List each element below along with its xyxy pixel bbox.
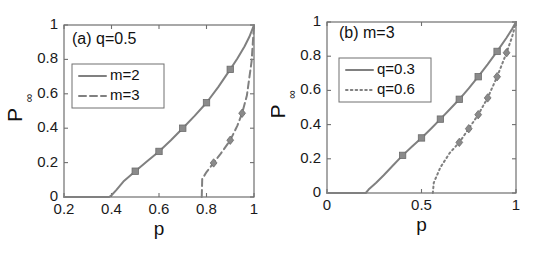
data-marker-square bbox=[494, 48, 500, 54]
y-axis-title-infinity: ∞ bbox=[285, 90, 299, 99]
data-marker-square bbox=[456, 96, 462, 102]
x-axis-title: p bbox=[154, 218, 165, 239]
legend-label: q=0.3 bbox=[377, 60, 415, 77]
data-marker-diamond bbox=[503, 49, 510, 57]
y-tick-label: 0.6 bbox=[300, 80, 321, 97]
y-tick-label: 1 bbox=[313, 12, 321, 29]
data-marker-square bbox=[203, 100, 209, 106]
y-tick-label: 0 bbox=[313, 183, 321, 200]
y-axis-title-P: P bbox=[3, 108, 26, 122]
y-tick-label: 0.6 bbox=[37, 84, 58, 101]
data-marker-square bbox=[180, 125, 186, 131]
panel-title: (b) m=3 bbox=[339, 24, 395, 41]
y-tick-label: 0 bbox=[50, 187, 58, 204]
y-axis-title-infinity: ∞ bbox=[22, 94, 36, 103]
plot-frame bbox=[64, 25, 254, 197]
chart-panel-b: 00.5100.20.40.60.81pP∞(b) m=3q=0.3q=0.6 bbox=[271, 0, 543, 253]
x-tick-label: 0.5 bbox=[411, 196, 432, 213]
data-marker-diamond bbox=[239, 109, 246, 117]
x-tick-label: 1 bbox=[512, 196, 520, 213]
data-marker-square bbox=[475, 74, 481, 80]
x-tick-label: 1 bbox=[250, 200, 258, 217]
panel-title: (a) q=0.5 bbox=[72, 30, 137, 47]
y-axis-title-P: P bbox=[271, 104, 289, 118]
y-tick-label: 0.4 bbox=[37, 118, 58, 135]
x-tick-label: 0.6 bbox=[149, 200, 170, 217]
chart-panel-a: 0.20.40.60.8100.20.40.60.81pP∞(a) q=0.5m… bbox=[0, 0, 272, 253]
y-tick-label: 0.2 bbox=[300, 149, 321, 166]
series-line-q06 bbox=[433, 22, 516, 193]
x-tick-label: 0.4 bbox=[101, 200, 122, 217]
figure-container: 0.20.40.60.8100.20.40.60.81pP∞(a) q=0.5m… bbox=[0, 0, 543, 253]
data-marker-square bbox=[156, 148, 162, 154]
series-line-m3 bbox=[202, 25, 254, 197]
y-tick-label: 0.8 bbox=[37, 49, 58, 66]
x-axis-title: p bbox=[416, 214, 427, 235]
data-marker-square bbox=[227, 66, 233, 72]
y-tick-label: 1 bbox=[50, 15, 58, 32]
data-marker-square bbox=[399, 152, 405, 158]
legend-label: m=2 bbox=[110, 66, 140, 83]
plot-frame bbox=[327, 22, 516, 193]
y-tick-label: 0.2 bbox=[37, 153, 58, 170]
x-tick-label: 0 bbox=[323, 196, 331, 213]
y-tick-label: 0.8 bbox=[300, 46, 321, 63]
series-line-q03 bbox=[327, 22, 516, 193]
legend-label: m=3 bbox=[110, 86, 140, 103]
series-line-m2 bbox=[64, 25, 254, 197]
data-marker-square bbox=[437, 116, 443, 122]
x-tick-label: 0.8 bbox=[196, 200, 217, 217]
y-tick-label: 0.4 bbox=[300, 115, 321, 132]
plot-svg-a: 0.20.40.60.8100.20.40.60.81pP∞(a) q=0.5m… bbox=[0, 0, 272, 253]
data-marker-square bbox=[418, 135, 424, 141]
data-marker-square bbox=[132, 168, 138, 174]
plot-svg-b: 00.5100.20.40.60.81pP∞(b) m=3q=0.3q=0.6 bbox=[271, 0, 543, 253]
legend-label: q=0.6 bbox=[377, 80, 415, 97]
